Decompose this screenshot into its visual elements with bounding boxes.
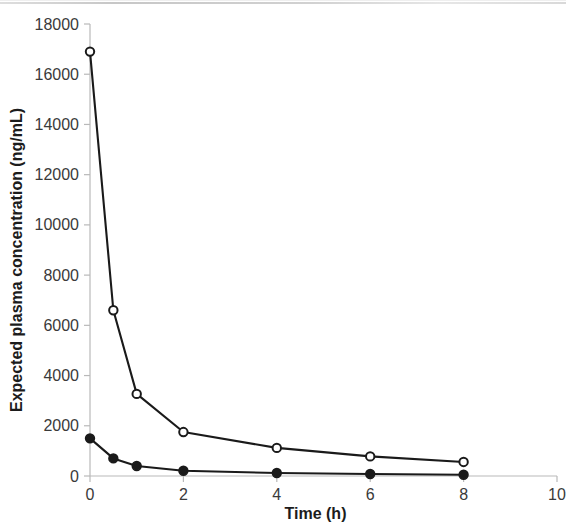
data-point-marker xyxy=(86,434,95,443)
data-point-marker xyxy=(273,444,281,452)
x-tick-label: 0 xyxy=(86,486,95,503)
y-tick-label: 14000 xyxy=(35,116,80,133)
y-tick-label: 8000 xyxy=(43,267,79,284)
data-series-layer xyxy=(86,47,468,479)
line-chart-plot: 0200040006000800010000120001400016000180… xyxy=(0,0,566,527)
y-tick-label: 16000 xyxy=(35,66,80,83)
x-tick-label: 4 xyxy=(272,486,281,503)
data-series-open-circle-series xyxy=(86,47,468,466)
y-axis-tick-labels: 0200040006000800010000120001400016000180… xyxy=(35,16,80,485)
data-point-marker xyxy=(133,390,141,398)
x-axis-tick-marks xyxy=(90,476,557,482)
x-tick-label: 8 xyxy=(459,486,468,503)
data-point-marker xyxy=(109,454,118,463)
scan-artifact-top xyxy=(0,0,566,1)
x-axis-title: Time (h) xyxy=(285,505,347,522)
y-axis-title: Expected plasma concentration (ng/mL) xyxy=(8,108,25,412)
data-point-marker xyxy=(459,458,467,466)
y-tick-label: 0 xyxy=(70,468,79,485)
data-point-marker xyxy=(366,452,374,460)
data-series-filled-circle-series xyxy=(86,434,468,479)
y-tick-label: 6000 xyxy=(43,317,79,334)
y-tick-label: 2000 xyxy=(43,417,79,434)
data-point-marker xyxy=(179,428,187,436)
x-tick-label: 2 xyxy=(179,486,188,503)
scan-artifact-line xyxy=(0,2,566,4)
y-tick-label: 12000 xyxy=(35,166,80,183)
chart-figure: 0200040006000800010000120001400016000180… xyxy=(0,0,566,527)
data-point-marker xyxy=(132,462,141,471)
data-point-marker xyxy=(366,470,375,479)
data-point-marker xyxy=(272,469,281,478)
data-point-marker xyxy=(109,306,117,314)
data-point-marker xyxy=(459,470,468,479)
y-tick-label: 10000 xyxy=(35,216,80,233)
y-axis-tick-marks xyxy=(84,24,90,476)
series-line xyxy=(90,52,464,462)
x-tick-label: 6 xyxy=(366,486,375,503)
data-point-marker xyxy=(179,466,188,475)
y-tick-label: 4000 xyxy=(43,367,79,384)
data-point-marker xyxy=(86,47,94,55)
x-tick-label: 10 xyxy=(548,486,566,503)
y-tick-label: 18000 xyxy=(35,16,80,33)
x-axis-tick-labels: 0246810 xyxy=(86,486,566,503)
